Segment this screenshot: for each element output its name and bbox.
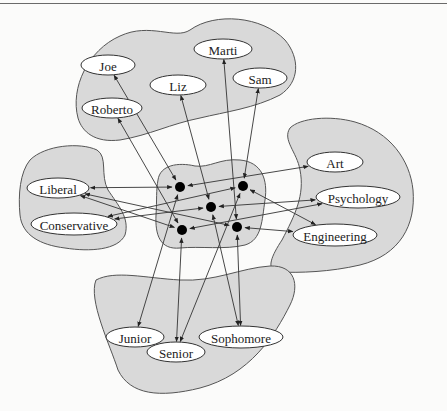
node-label: Roberto xyxy=(91,102,133,117)
node-sophomore: Sophomore xyxy=(199,326,283,348)
center-node-c5 xyxy=(232,222,242,232)
node-label: Joe xyxy=(99,59,117,74)
node-conservative: Conservative xyxy=(31,213,117,235)
dot-icon xyxy=(206,202,216,212)
center-node-c4 xyxy=(177,225,187,235)
node-label: Engineering xyxy=(303,229,367,244)
node-label: Senior xyxy=(159,346,194,361)
dot-icon xyxy=(177,225,187,235)
network-diagram: JoeMartiLizSamRobertoArtPsychologyEngine… xyxy=(0,0,447,411)
node-label: Junior xyxy=(119,331,152,346)
node-marti: Marti xyxy=(194,39,252,59)
network-figure: JoeMartiLizSamRobertoArtPsychologyEngine… xyxy=(0,0,447,411)
node-psychology: Psychology xyxy=(316,186,400,208)
node-senior: Senior xyxy=(147,342,205,362)
node-label: Liberal xyxy=(39,182,77,197)
node-junior: Junior xyxy=(106,327,164,347)
node-label: Sophomore xyxy=(211,331,271,346)
node-label: Art xyxy=(326,156,344,171)
dot-icon xyxy=(175,182,185,192)
node-label: Sam xyxy=(248,72,271,87)
node-liberal: Liberal xyxy=(27,178,89,198)
node-label: Liz xyxy=(169,79,187,94)
node-liz: Liz xyxy=(150,75,206,95)
node-roberto: Roberto xyxy=(82,98,142,118)
dot-icon xyxy=(238,181,248,191)
node-label: Marti xyxy=(209,43,238,58)
node-art: Art xyxy=(307,152,363,172)
center-node-c2 xyxy=(238,181,248,191)
node-label: Conservative xyxy=(40,218,109,233)
node-engineering: Engineering xyxy=(293,224,377,246)
center-node-c1 xyxy=(175,182,185,192)
node-label: Psychology xyxy=(328,191,389,206)
node-joe: Joe xyxy=(81,55,135,75)
center-node-c3 xyxy=(206,202,216,212)
dot-icon xyxy=(232,222,242,232)
node-sam: Sam xyxy=(233,68,287,88)
